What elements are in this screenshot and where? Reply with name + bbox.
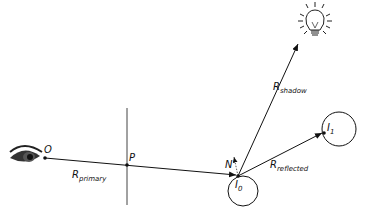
reflected-ray-label: Rreflected [270, 159, 309, 173]
intersection-1-point [322, 131, 326, 135]
light-bulb-icon [298, 2, 332, 35]
pixel-label: P [129, 152, 136, 163]
shadow-ray [238, 44, 298, 176]
intersection-1-label: I1 [327, 122, 334, 136]
origin-point [43, 156, 47, 160]
normal-label: N [225, 159, 233, 170]
intersection-0-label: I0 [235, 179, 243, 193]
normal-vector [234, 157, 238, 176]
sphere-0 [228, 176, 258, 206]
ray-tracing-diagram: O P N I0 I1 Rprimary Rshadow Rreflected [0, 0, 370, 217]
shadow-ray-label: Rshadow [273, 81, 307, 95]
origin-label: O [44, 144, 52, 155]
pixel-point [125, 163, 129, 167]
primary-ray-label: Rprimary [72, 169, 107, 183]
eye-icon [10, 146, 42, 162]
